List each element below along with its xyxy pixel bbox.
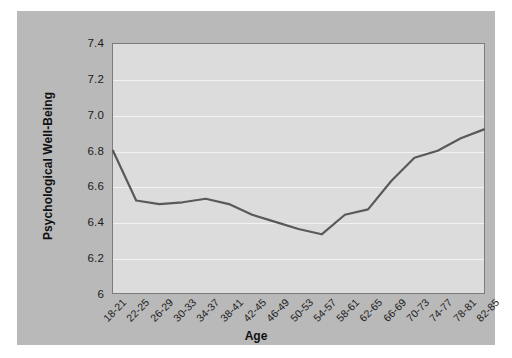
plot-area <box>112 43 485 294</box>
x-axis-title: Age <box>17 329 495 343</box>
y-tick-label: 7.2 <box>34 73 104 85</box>
y-tick-label: 6.8 <box>34 145 104 157</box>
y-axis-tick-labels: 66.26.46.66.87.07.27.4 <box>32 43 104 294</box>
y-tick-label: 6 <box>34 288 104 300</box>
series-polyline <box>113 129 484 234</box>
y-tick-label: 7.4 <box>34 37 104 49</box>
y-tick-label: 7.0 <box>34 109 104 121</box>
chart-figure: Psychological Well-Being 66.26.46.66.87.… <box>0 0 512 358</box>
chart-panel: Psychological Well-Being 66.26.46.66.87.… <box>17 11 495 345</box>
series-line-chart <box>113 44 484 293</box>
y-tick-label: 6.6 <box>34 180 104 192</box>
y-tick-label: 6.2 <box>34 252 104 264</box>
y-tick-label: 6.4 <box>34 216 104 228</box>
